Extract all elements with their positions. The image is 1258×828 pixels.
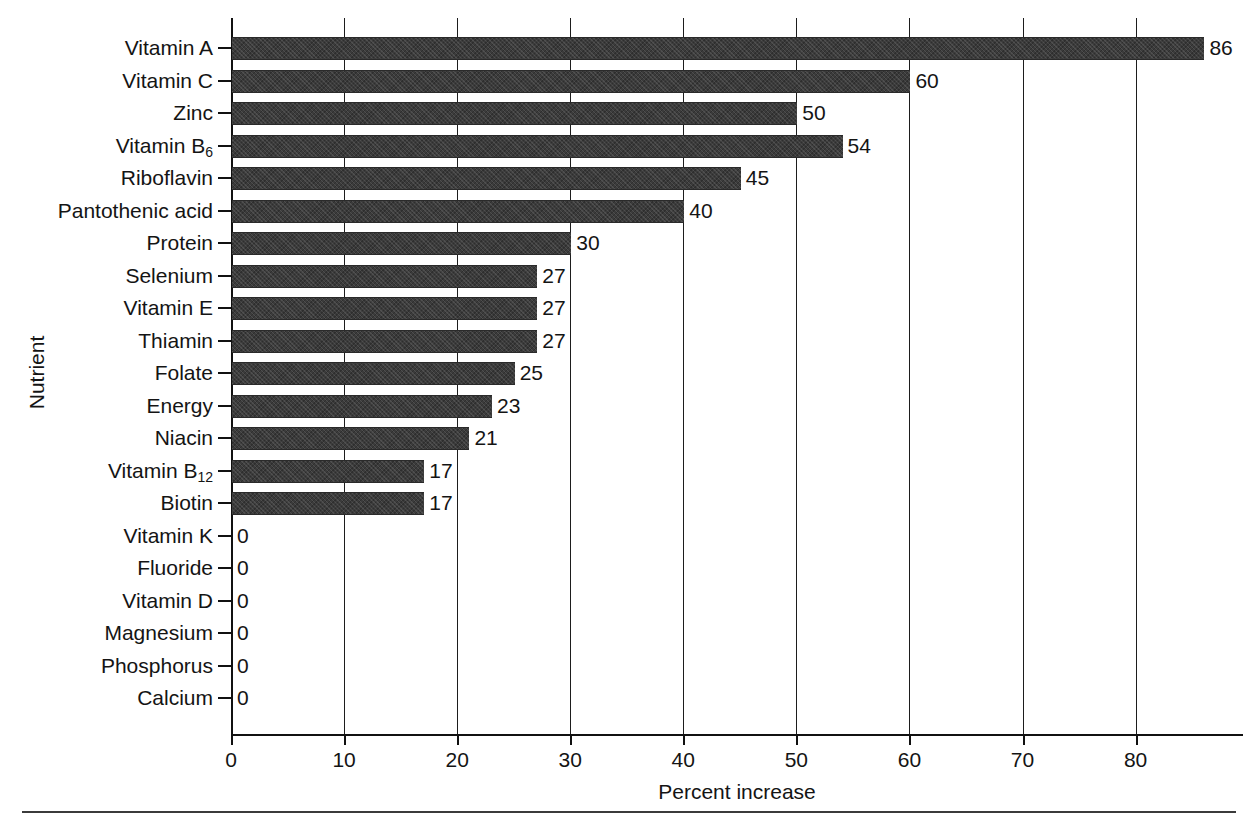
y-tick-mark <box>218 340 231 342</box>
x-tick-label-0: 0 <box>201 747 261 772</box>
x-tick-label-10: 10 <box>314 747 374 772</box>
bar-value-label: 0 <box>237 522 249 549</box>
bar <box>232 460 424 483</box>
bar <box>232 200 684 223</box>
y-tick-mark <box>218 405 231 407</box>
y-tick-mark <box>218 145 231 147</box>
bar-value-label: 0 <box>237 652 249 679</box>
y-tick-label: Vitamin D <box>0 587 213 614</box>
y-tick-label: Riboflavin <box>0 164 213 191</box>
bar-row: Magnesium0 <box>231 617 1243 650</box>
y-tick-label-text: Zinc <box>173 101 213 124</box>
y-tick-label-text: Riboflavin <box>121 166 213 189</box>
y-tick-label-text: Vitamin E <box>124 296 214 319</box>
y-tick-label-text: Biotin <box>160 491 213 514</box>
x-tick-label-80: 80 <box>1106 747 1166 772</box>
y-tick-label-text: Niacin <box>155 426 213 449</box>
bar-row: Vitamin A86 <box>231 32 1243 65</box>
y-tick-mark <box>218 470 231 472</box>
y-tick-label: Phosphorus <box>0 652 213 679</box>
bar <box>232 37 1204 60</box>
bar-row: Vitamin D0 <box>231 585 1243 618</box>
x-tick-label-20: 20 <box>427 747 487 772</box>
bar-row: Protein30 <box>231 227 1243 260</box>
x-tick-mark-60 <box>909 736 911 745</box>
bar-value-label: 45 <box>746 164 769 191</box>
x-tick-mark-30 <box>570 736 572 745</box>
x-tick-label-40: 40 <box>653 747 713 772</box>
bar <box>232 362 515 385</box>
y-tick-mark <box>218 80 231 82</box>
bar-value-label: 54 <box>848 132 871 159</box>
bar-row: Selenium27 <box>231 260 1243 293</box>
y-tick-label: Protein <box>0 229 213 256</box>
bottom-rule <box>22 811 1236 813</box>
y-tick-label: Vitamin A <box>0 34 213 61</box>
x-axis-title: Percent increase <box>231 779 1243 804</box>
y-tick-label: Fluoride <box>0 554 213 581</box>
chart-page: Vitamin A86Vitamin C60Zinc50Vitamin B654… <box>0 0 1258 828</box>
y-axis-title: Nutrient <box>24 313 49 433</box>
y-tick-label-subscript: 12 <box>197 469 213 485</box>
y-tick-label-text: Fluoride <box>137 556 213 579</box>
bar-value-label: 0 <box>237 619 249 646</box>
bar-value-label: 30 <box>576 229 599 256</box>
y-tick-mark <box>218 697 231 699</box>
plot-area: Vitamin A86Vitamin C60Zinc50Vitamin B654… <box>231 18 1243 735</box>
y-tick-mark <box>218 502 231 504</box>
bar-row: Calcium0 <box>231 682 1243 715</box>
y-tick-label-text: Thiamin <box>138 329 213 352</box>
bar-value-label: 25 <box>520 359 543 386</box>
y-tick-mark <box>218 112 231 114</box>
bar-row: Thiamin27 <box>231 325 1243 358</box>
y-tick-label: Vitamin K <box>0 522 213 549</box>
bar-value-label: 0 <box>237 684 249 711</box>
x-tick-mark-0 <box>231 736 233 745</box>
bar-row: Vitamin B1217 <box>231 455 1243 488</box>
y-tick-mark <box>218 210 231 212</box>
y-tick-label-text: Vitamin C <box>122 69 213 92</box>
bar <box>232 232 571 255</box>
x-tick-label-30: 30 <box>540 747 600 772</box>
x-tick-mark-20 <box>457 736 459 745</box>
y-tick-label-text: Vitamin D <box>122 589 213 612</box>
bar-value-label: 86 <box>1209 34 1232 61</box>
y-tick-mark <box>218 600 231 602</box>
bar-value-label: 21 <box>474 424 497 451</box>
bar-row: Vitamin K0 <box>231 520 1243 553</box>
bar <box>232 427 469 450</box>
y-tick-mark <box>218 275 231 277</box>
y-tick-mark <box>218 567 231 569</box>
y-tick-label: Vitamin B6 <box>0 132 213 162</box>
y-tick-label-text: Vitamin B <box>116 134 206 157</box>
y-tick-mark <box>218 177 231 179</box>
bar-value-label: 60 <box>915 67 938 94</box>
bar-value-label: 23 <box>497 392 520 419</box>
bar-value-label: 50 <box>802 99 825 126</box>
y-tick-label-text: Vitamin B <box>108 459 198 482</box>
bar <box>232 395 492 418</box>
bar-row: Fluoride0 <box>231 552 1243 585</box>
bar-row: Vitamin C60 <box>231 65 1243 98</box>
y-tick-label: Magnesium <box>0 619 213 646</box>
y-tick-label-text: Vitamin K <box>124 524 214 547</box>
bar-value-label: 17 <box>429 457 452 484</box>
y-tick-label: Selenium <box>0 262 213 289</box>
y-tick-mark <box>218 307 231 309</box>
y-tick-label-text: Pantothenic acid <box>58 199 213 222</box>
x-tick-mark-10 <box>344 736 346 745</box>
bar <box>232 135 843 158</box>
y-tick-label-text: Selenium <box>125 264 213 287</box>
bar-value-label: 0 <box>237 587 249 614</box>
y-tick-mark <box>218 437 231 439</box>
bar-row: Biotin17 <box>231 487 1243 520</box>
x-tick-mark-40 <box>683 736 685 745</box>
bar <box>232 297 537 320</box>
bar <box>232 102 797 125</box>
y-tick-mark <box>218 242 231 244</box>
bar-value-label: 27 <box>542 294 565 321</box>
bar-row: Riboflavin45 <box>231 162 1243 195</box>
y-tick-mark <box>218 535 231 537</box>
bar <box>232 492 424 515</box>
y-tick-label-text: Magnesium <box>104 621 213 644</box>
